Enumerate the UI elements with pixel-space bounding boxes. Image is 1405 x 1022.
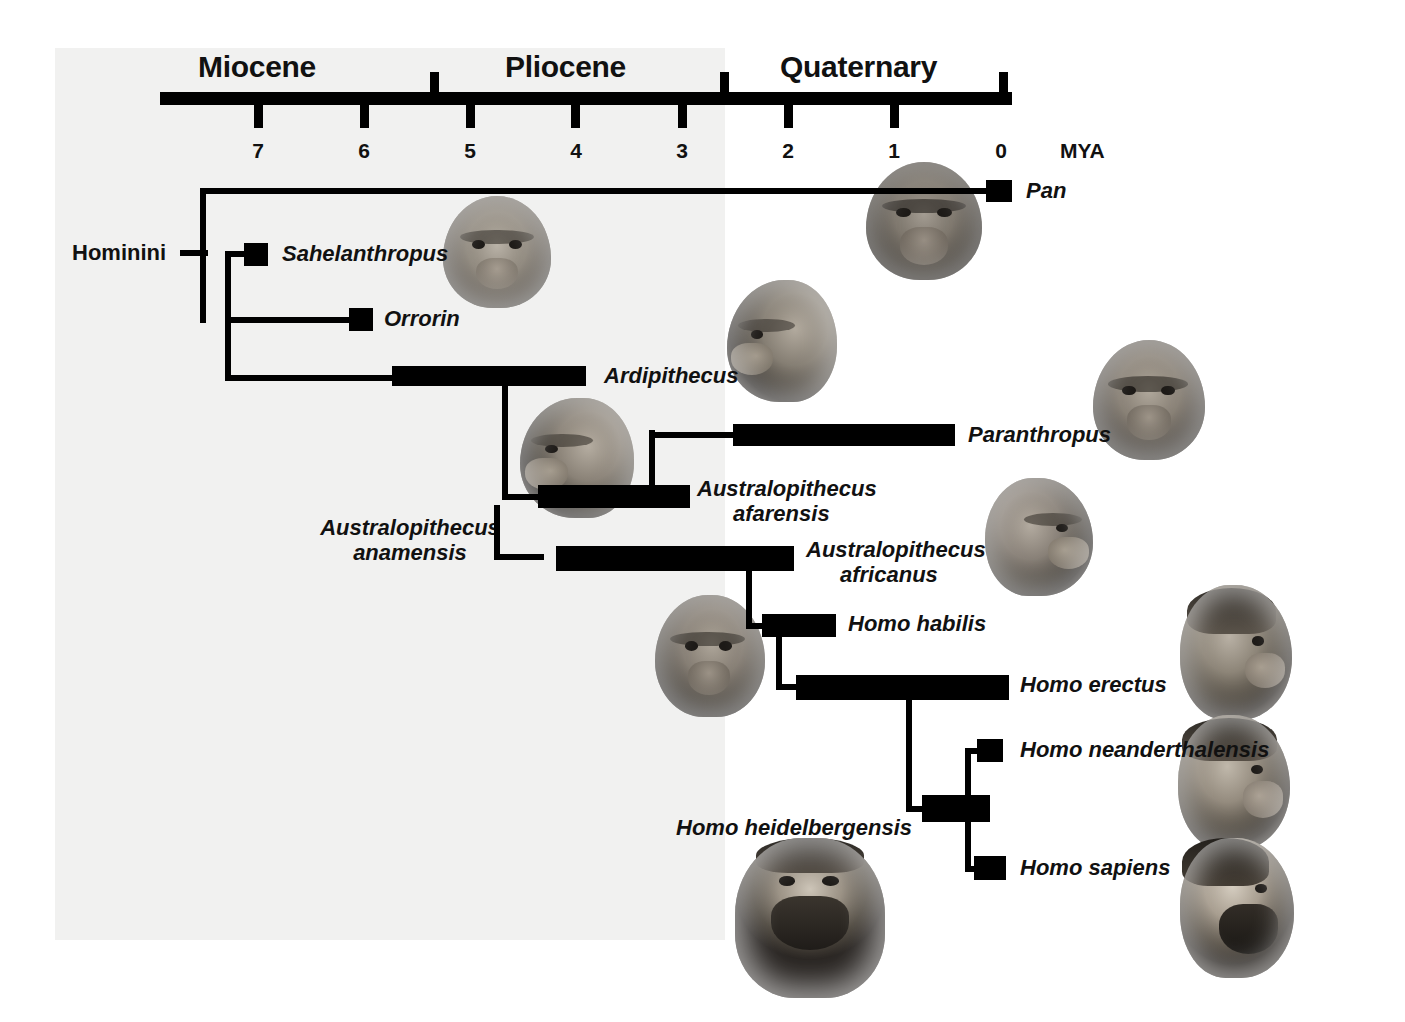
taxon-label-neanderthalensis: Homo neanderthalensis [1020, 738, 1269, 763]
taxon-label-anamensis-line1: Australopithecus [320, 515, 500, 540]
pan-range-block [986, 180, 1012, 202]
neanderthalensis-portrait [1178, 715, 1290, 850]
ardipithecus-range-bar [392, 366, 586, 386]
axis-tick-label-2: 2 [768, 139, 808, 163]
axis-tick-label-6: 6 [344, 139, 384, 163]
ardipithecus-branch-line [225, 375, 400, 381]
sahelanthropus-range-block [244, 243, 268, 266]
taxon-label-anamensis-line2: anamensis [353, 540, 467, 565]
neanderthalensis-range-block [977, 739, 1003, 762]
taxon-label-heidelbergensis: Homo heidelbergensis [612, 816, 912, 841]
taxon-label-pan: Pan [1026, 179, 1066, 204]
pan-portrait [866, 162, 982, 280]
vignette [1180, 585, 1292, 720]
taxon-label-africanus: Australopithecus africanus [806, 538, 1096, 587]
taxon-label-erectus: Homo erectus [1020, 673, 1167, 698]
axis-tick-2 [784, 104, 793, 128]
sapiens-portrait [1180, 838, 1294, 978]
anamensis-to-afarensis-vertical [649, 430, 655, 492]
epoch-boundary-tick-miocene-pliocene [430, 72, 439, 94]
axis-tick-6 [360, 104, 369, 128]
axis-tick-label-5: 5 [450, 139, 490, 163]
afarensis-node-line [649, 432, 739, 438]
orrorin-range-block [349, 308, 373, 331]
vignette [866, 162, 982, 280]
habilis-range-bar [762, 614, 836, 637]
epoch-label-pliocene: Pliocene [505, 50, 626, 84]
sapiens-range-block [974, 856, 1006, 880]
habilis-to-erectus-vertical [776, 633, 782, 688]
anamensis-range-bar [538, 485, 690, 508]
taxon-label-afarensis-line2: afarensis [697, 502, 830, 527]
epoch-boundary-tick-pliocene-quaternary [720, 72, 729, 94]
axis-tick-label-3: 3 [662, 139, 702, 163]
axis-tick-1 [890, 104, 899, 128]
epoch-boundary-tick-end [999, 72, 1008, 94]
axis-main-bar [160, 92, 1012, 105]
figure-canvas: Miocene Pliocene Quaternary 7 6 5 4 3 2 … [0, 0, 1405, 1022]
pan-branch-line [200, 188, 990, 194]
axis-tick-5 [466, 104, 475, 128]
root-node-vertical [200, 188, 206, 323]
clade-label-hominini: Hominini [72, 240, 166, 266]
erectus-to-heidelbergensis-vertical [906, 697, 912, 811]
epoch-label-miocene: Miocene [198, 50, 316, 84]
taxon-label-orrorin: Orrorin [384, 307, 460, 332]
taxon-label-sapiens: Homo sapiens [1020, 856, 1170, 881]
vignette [735, 838, 885, 998]
africanus-range-bar [556, 546, 794, 571]
ardipithecus-to-anamensis-vertical [502, 382, 508, 497]
taxon-label-afarensis-line1: Australopithecus [697, 476, 877, 501]
ardipithecus-portrait [727, 280, 837, 402]
axis-tick-3 [678, 104, 687, 128]
erectus-range-bar [796, 675, 1009, 700]
axis-unit-label: MYA [1060, 139, 1105, 163]
orrorin-branch-line [225, 317, 360, 323]
epoch-label-quaternary: Quaternary [780, 50, 937, 84]
heidelbergensis-range-bar [922, 795, 990, 822]
erectus-portrait [1180, 585, 1292, 720]
axis-tick-7 [254, 104, 263, 128]
africanus-branch-line [494, 554, 544, 560]
node2-vertical [225, 251, 231, 381]
anamensis-to-africanus-vertical [494, 505, 500, 557]
axis-tick-label-4: 4 [556, 139, 596, 163]
heidelbergensis-portrait [735, 838, 885, 998]
axis-tick-label-1: 1 [874, 139, 914, 163]
paranthropus-range-bar [733, 424, 955, 446]
taxon-label-habilis: Homo habilis [848, 612, 986, 637]
taxon-label-sahelanthropus: Sahelanthropus [282, 242, 448, 267]
heidelbergensis-split-vertical [965, 748, 971, 870]
taxon-label-paranthropus: Paranthropus [968, 423, 1111, 448]
taxon-label-afarensis: Australopithecus afarensis [697, 477, 987, 526]
taxon-label-africanus-line2: africanus [806, 563, 938, 588]
vignette [1180, 838, 1294, 978]
taxon-label-africanus-line1: Australopithecus [806, 537, 986, 562]
vignette [1178, 715, 1290, 850]
taxon-label-ardipithecus: Ardipithecus [604, 364, 738, 389]
axis-tick-label-0: 0 [981, 139, 1021, 163]
africanus-to-habilis-vertical [746, 568, 752, 626]
axis-tick-label-7: 7 [238, 139, 278, 163]
vignette [727, 280, 837, 402]
axis-tick-4 [571, 104, 580, 128]
